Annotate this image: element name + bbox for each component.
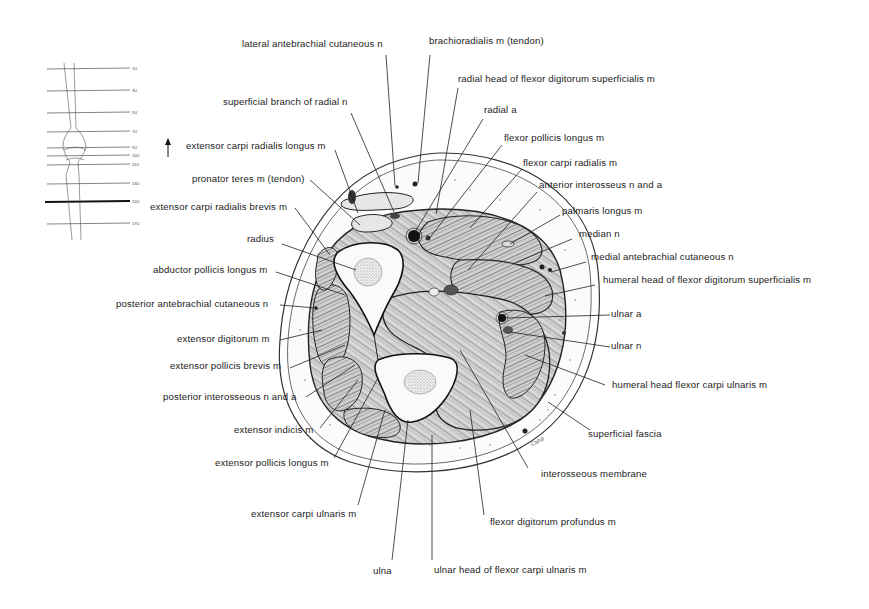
label-radius: radius	[247, 233, 274, 245]
label-ecrb: extensor carpi radialis brevis m	[150, 201, 287, 213]
forearm-cross-section: Cahill	[279, 153, 599, 472]
label-superficial-fascia: superficial fascia	[588, 428, 662, 440]
label-ulnar-a: ulnar a	[611, 308, 641, 320]
label-extensor-carpi-ulnaris: extensor carpi ulnaris m	[251, 508, 356, 520]
level-label: 7U	[132, 129, 137, 134]
label-radial-a: radial a	[484, 104, 517, 116]
level-label: 1U	[132, 66, 137, 71]
label-lateral-antebrachial-cutaneous-n: lateral antebrachial cutaneous n	[242, 38, 383, 50]
label-brachioradialis-tendon: brachioradialis m (tendon)	[429, 35, 544, 47]
label-medial-antebrachial-cutaneous-n: medial antebrachial cutaneous n	[591, 251, 734, 263]
label-posterior-antebrachial-cutaneous-n: posterior antebrachial cutaneous n	[116, 298, 268, 310]
level-label: 10U	[132, 153, 139, 158]
label-extensor-digitorum: extensor digitorum m	[177, 333, 270, 345]
label-ecrl: extensor carpi radialis longus m	[186, 140, 326, 152]
label-humeral-head-fds: humeral head of flexor digitorum superfi…	[603, 274, 811, 286]
level-label: 9U	[132, 145, 137, 150]
level-label-highlighted: 15U	[132, 199, 139, 204]
label-abductor-pollicis-longus: abductor pollicis longus m	[153, 264, 267, 276]
label-posterior-interosseous: posterior interosseous n and a	[163, 391, 297, 403]
level-label: 3U	[132, 88, 137, 93]
level-label: 13U	[132, 181, 139, 186]
label-pronator-teres-tendon: pronator teres m (tendon)	[192, 173, 305, 185]
label-flexor-carpi-radialis: flexor carpi radialis m	[523, 157, 617, 169]
label-median-n: median n	[579, 228, 620, 240]
label-superficial-branch-radial-n: superficial branch of radial n	[223, 96, 348, 108]
label-extensor-indicis: extensor indicis m	[234, 424, 313, 436]
label-ulnar-head-fcu: ulnar head of flexor carpi ulnaris m	[434, 564, 587, 576]
label-extensor-pollicis-longus: extensor pollicis longus m	[215, 457, 329, 469]
label-ulnar-n: ulnar n	[611, 340, 641, 352]
label-extensor-pollicis-brevis: extensor pollicis brevis m	[170, 360, 281, 372]
orientation-thumbnail	[45, 63, 171, 240]
label-flexor-digitorum-profundus: flexor digitorum profundus m	[490, 516, 616, 528]
level-label: 11U	[132, 162, 139, 167]
label-interosseous-membrane: interosseous membrane	[541, 468, 647, 480]
label-flexor-pollicis-longus: flexor pollicis longus m	[504, 132, 604, 144]
label-ulna: ulna	[373, 565, 392, 577]
label-radial-head-fds: radial head of flexor digitorum superfic…	[458, 73, 655, 85]
label-humeral-head-fcu: humeral head flexor carpi ulnaris m	[612, 379, 767, 391]
label-anterior-interosseus: anterior interosseus n and a	[539, 179, 662, 191]
level-label: 17U	[132, 221, 139, 226]
anatomy-figure: Cahill	[0, 0, 869, 609]
label-palmaris-longus: palmaris longus m	[562, 205, 642, 217]
level-label: 5U	[132, 110, 137, 115]
